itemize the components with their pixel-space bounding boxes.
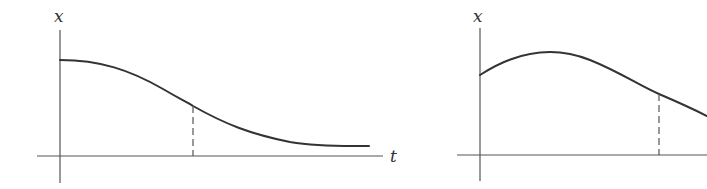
figure: x t x	[0, 0, 707, 189]
left-x-axis-label: t	[390, 146, 397, 166]
left-y-axis-label: x	[54, 6, 64, 26]
right-curve	[480, 52, 707, 116]
left-curve	[60, 60, 369, 146]
panel-right: x	[457, 6, 707, 181]
right-y-axis-label: x	[473, 6, 483, 26]
panel-left: x t	[37, 6, 397, 183]
